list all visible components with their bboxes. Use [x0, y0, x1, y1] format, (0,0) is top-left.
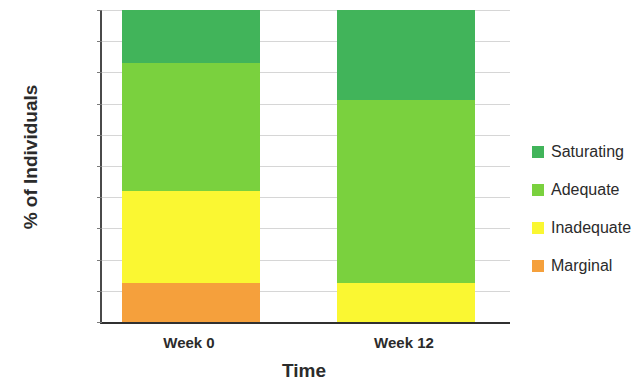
legend-swatch-icon — [532, 222, 544, 234]
y-axis-tick — [97, 260, 102, 261]
bar-week-0 — [122, 10, 260, 322]
bar-segment-marginal — [122, 283, 260, 322]
bar-segment-inadequate — [337, 283, 475, 322]
bar-segment-inadequate — [122, 191, 260, 283]
legend-item-saturating[interactable]: Saturating — [532, 133, 643, 171]
y-axis-tick — [97, 228, 102, 229]
y-axis-tick — [97, 166, 102, 167]
plot-area — [100, 10, 510, 324]
y-axis-tick — [97, 197, 102, 198]
y-axis-tick — [97, 135, 102, 136]
y-axis-title: % of Individuals — [20, 62, 42, 252]
x-axis-title: Time — [100, 360, 508, 382]
legend-item-inadequate[interactable]: Inadequate — [532, 209, 643, 247]
bar-segment-saturating — [122, 10, 260, 63]
y-axis-tick — [97, 104, 102, 105]
y-axis-tick — [97, 322, 102, 323]
legend-item-label: Inadequate — [551, 219, 631, 237]
bar-week-12 — [337, 10, 475, 322]
bar-segment-saturating — [337, 10, 475, 100]
x-axis-tick-label: Week 0 — [104, 334, 274, 351]
legend-swatch-icon — [532, 184, 544, 196]
legend-item-label: Saturating — [551, 143, 624, 161]
x-axis-tick-label: Week 12 — [319, 334, 489, 351]
legend-item-adequate[interactable]: Adequate — [532, 171, 643, 209]
chart-legend: SaturatingAdequateInadequateMarginal — [532, 133, 643, 285]
y-axis-tick — [97, 72, 102, 73]
bar-segment-adequate — [337, 100, 475, 283]
legend-swatch-icon — [532, 146, 544, 158]
bar-segment-adequate — [122, 63, 260, 191]
y-axis-tick — [97, 10, 102, 11]
legend-item-label: Adequate — [551, 181, 620, 199]
y-axis-tick — [97, 41, 102, 42]
legend-item-label: Marginal — [551, 257, 612, 275]
legend-swatch-icon — [532, 260, 544, 272]
y-axis-tick — [97, 291, 102, 292]
legend-item-marginal[interactable]: Marginal — [532, 247, 643, 285]
stacked-bar-chart: % of Individuals 0%10%20%30%40%50%60%70%… — [0, 0, 643, 388]
